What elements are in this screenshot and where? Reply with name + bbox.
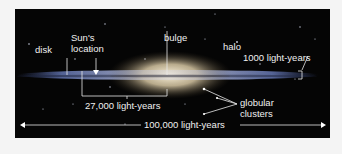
sun-location-label-line2: location	[71, 44, 104, 54]
globular-clusters-label-line2: clusters	[240, 109, 273, 119]
sun-location-label-line1: Sun's	[71, 33, 94, 43]
galaxy-diagram: disk Sun's location bulge halo 1000 ligh…	[15, 9, 330, 138]
thickness-label: 1000 light-years	[243, 53, 311, 63]
bulge-label: bulge	[164, 33, 187, 43]
disk-label: disk	[35, 45, 52, 55]
halo-label: halo	[223, 42, 241, 52]
globular-clusters-label-line1: globular	[240, 98, 274, 108]
sun-distance-label: 27,000 light-years	[85, 101, 161, 111]
diameter-label: 100,000 light-years	[144, 120, 225, 130]
